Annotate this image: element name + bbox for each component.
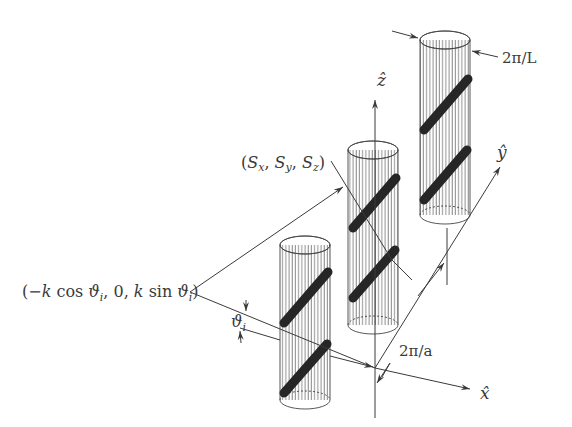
z-axis-label: ẑ: [376, 70, 387, 90]
helix-lattice-diagram: ẑ ŷ x̂ 2π/L 2π/a (Sx, Sy, Sz) (−k cos ϑi…: [0, 0, 572, 427]
cylinder-back: [420, 31, 470, 224]
y-axis-label: ŷ: [496, 142, 507, 162]
incident-wavevector-label: (−k cos ϑi, 0, k sin ϑi): [22, 282, 199, 304]
lattice-period-label: 2π/a: [399, 342, 432, 360]
incidence-angle-label: ϑi: [231, 312, 246, 334]
diagram-canvas: ẑ ŷ x̂ 2π/L 2π/a (Sx, Sy, Sz) (−k cos ϑi…: [0, 0, 572, 427]
angle-arrow-bottom: [240, 331, 241, 343]
x-axis-label: x̂: [480, 383, 490, 403]
incidence-ray: [240, 328, 280, 340]
x-axis: [375, 368, 470, 389]
cylinder-middle: [348, 141, 398, 334]
cylinder-front: [280, 236, 330, 409]
helix-period-label: 2π/L: [502, 49, 536, 67]
scattered-wavevector-label: (Sx, Sy, Sz): [241, 153, 325, 174]
